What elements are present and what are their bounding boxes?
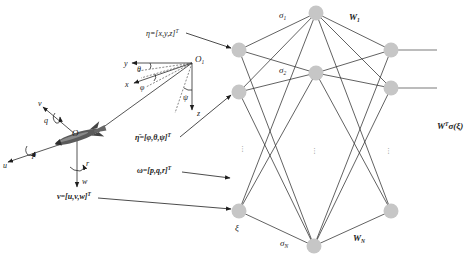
position-vector-line — [98, 63, 192, 131]
theta-arc — [150, 63, 151, 69]
x-axis-arrow — [134, 63, 192, 83]
input-hidden-connections — [239, 13, 316, 246]
phi-label: φ — [140, 83, 145, 92]
hidden-ellipsis: ⋮ — [311, 147, 318, 155]
hidden-node-n — [307, 239, 322, 254]
attitude-input-label: η̄=[φ,θ,ψ]T — [135, 132, 171, 143]
angular-rate-input-arrow — [182, 172, 230, 178]
output-ellipsis: ⋮ — [385, 147, 392, 155]
sigma-n-label: σN — [280, 238, 288, 249]
position-input-arrow — [186, 33, 231, 48]
output-layer — [384, 43, 399, 219]
z-axis-label: z — [196, 109, 201, 118]
hidden-layer — [307, 6, 324, 254]
origin-o1-label: O1 — [195, 54, 205, 65]
q-label: q — [44, 116, 48, 125]
v-axis-label: v — [38, 99, 42, 108]
input-node-xi — [232, 204, 247, 219]
input-layer — [232, 43, 247, 219]
body-origin-label: O — [72, 128, 79, 138]
phi-arc — [154, 74, 156, 81]
neural-network-diagram: ⋮ ⋮ ⋮ σ1 σ2 σN W1 WN ξ WTσ(ξ) y x z θ φ … — [0, 0, 470, 262]
network-output-label: WTσ(ξ) — [437, 121, 463, 132]
theta-label: θ — [137, 65, 141, 74]
sigma-1-label: σ1 — [279, 10, 286, 21]
output-node-n — [384, 204, 399, 219]
input-ellipsis: ⋮ — [239, 145, 246, 153]
output-node-2 — [384, 81, 399, 96]
xi-label: ξ — [235, 223, 239, 233]
p-label: p — [31, 150, 36, 159]
sigma-2-label: σ2 — [279, 65, 286, 76]
hidden-output-connections — [314, 13, 391, 246]
psi-arc — [184, 88, 192, 90]
velocity-input-label: ν=[u,v,w]T — [57, 191, 91, 202]
x-axis-label: x — [124, 80, 129, 89]
hidden-node-2 — [309, 66, 324, 81]
u-axis-label: u — [3, 161, 7, 170]
vehicle-icon — [53, 120, 108, 152]
psi-label: ψ — [183, 93, 189, 102]
input-node-1 — [232, 43, 247, 58]
body-frame: u v w p q r O — [3, 99, 108, 187]
y-axis-label: y — [123, 59, 128, 68]
w-axis-label: w — [82, 177, 88, 186]
input-node-2 — [232, 85, 247, 100]
velocity-input-arrow — [98, 198, 231, 209]
output-node-1 — [384, 43, 399, 58]
position-input-label: η=[x,y,z]T — [146, 28, 179, 39]
output-lines — [391, 50, 437, 88]
hidden-node-1 — [309, 6, 324, 21]
r-label: r — [86, 159, 90, 168]
weight-1-label: W1 — [349, 12, 360, 23]
weight-n-label: WN — [353, 233, 366, 244]
earth-frame: y x z θ φ ψ O1 — [123, 54, 205, 118]
angular-rate-input-label: ω=[p,q,r]T — [137, 165, 172, 176]
